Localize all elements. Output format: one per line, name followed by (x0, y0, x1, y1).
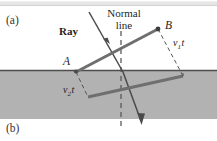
v1t-construction-line (158, 29, 183, 76)
panel-b-label: (b) (6, 122, 19, 134)
v2t-time: t (71, 84, 74, 95)
top-gray-band (0, 2, 217, 6)
medium-shaded-region (0, 71, 217, 119)
point-b-label: B (165, 19, 172, 31)
normal-line-label-row1: Normal (100, 8, 148, 20)
ray-label: Ray (59, 26, 78, 38)
point-a-marker (74, 69, 78, 73)
point-a-label: A (63, 55, 70, 67)
normal-line-label-row2: line (100, 20, 148, 32)
point-b-marker (156, 27, 161, 32)
panel-a-label: (a) (6, 14, 19, 26)
v2t-label: v2t (63, 85, 74, 98)
refraction-figure: (a) (b) Ray Normal line A B v1t v2t (0, 0, 217, 141)
v1t-time: t (181, 37, 184, 48)
v1t-label: v1t (173, 38, 184, 51)
normal-line-label: Normal line (100, 8, 148, 31)
incident-wavefront-AB (76, 29, 158, 72)
